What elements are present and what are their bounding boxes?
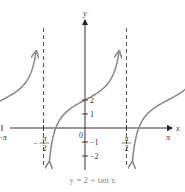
- y-tick-label: 1: [90, 110, 94, 119]
- svg-text:−: −: [33, 139, 38, 148]
- tan-branch: [132, 52, 185, 163]
- origin-label: 0: [79, 131, 83, 140]
- x-tick-label: 2: [42, 144, 46, 153]
- y-tick-label: −1: [90, 138, 99, 147]
- tan-branch: [49, 52, 119, 163]
- y-axis-label: y: [82, 9, 87, 18]
- x-tick-label: −π: [0, 133, 8, 142]
- tan-graph: 3π2−−ππ2−π2π3π221−1−2xy0: [0, 0, 185, 192]
- x-tick-label: π: [42, 134, 47, 143]
- graph-caption: y = 2 + tan x: [0, 175, 185, 185]
- tan-branch: [0, 52, 36, 163]
- x-axis-label: x: [175, 124, 180, 133]
- x-tick-label: 2: [125, 144, 129, 153]
- x-tick-label: π: [124, 134, 129, 143]
- x-tick-label: π: [166, 133, 171, 142]
- y-tick-label: 2: [90, 96, 94, 105]
- axis-labels: 3π2−−ππ2−π2π3π221−1−2xy0: [0, 9, 185, 161]
- y-tick-label: −2: [90, 152, 99, 161]
